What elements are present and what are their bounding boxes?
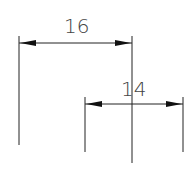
arrowhead-left-icon	[86, 101, 102, 107]
dimension-14: 14	[85, 77, 183, 107]
arrowhead-right-icon	[115, 40, 131, 46]
dimension-drawing: 16 14	[0, 0, 195, 171]
dimension-label: 14	[121, 77, 146, 101]
arrowhead-right-icon	[166, 101, 182, 107]
dimension-16: 16	[19, 14, 132, 46]
dimension-label: 16	[64, 14, 89, 38]
arrowhead-left-icon	[20, 40, 36, 46]
